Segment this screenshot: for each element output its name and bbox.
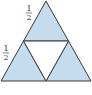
label-upper-numerator: 1 [26,4,31,13]
label-upper-denominator: 2 [26,13,31,22]
sierpinski-diagram: 1 2 1 2 [0,0,92,95]
label-lower-denominator: 2 [3,53,8,62]
label-lower-numerator: 1 [3,44,8,53]
label-upper-half: 1 2 [26,4,32,22]
label-lower-half: 1 2 [3,44,9,62]
